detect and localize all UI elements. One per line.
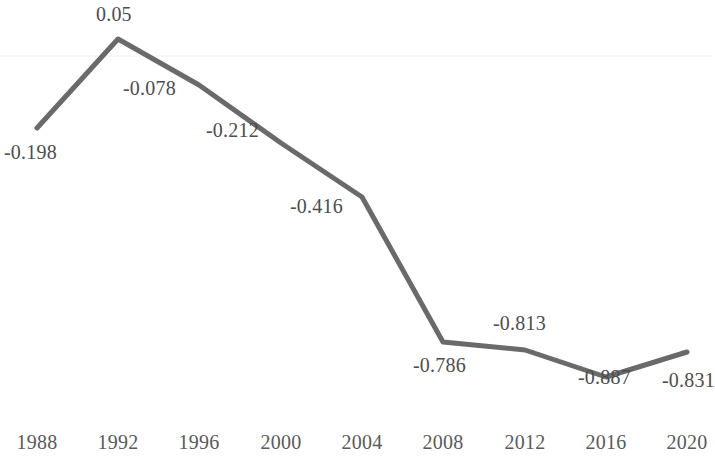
x-axis-tick-label: 2000 (261, 432, 302, 452)
x-axis-tick-label: 2012 (505, 432, 546, 452)
data-point-label: -0.078 (123, 78, 176, 98)
x-axis-tick-label: 2020 (667, 432, 708, 452)
data-point-label: -0.831 (662, 370, 715, 390)
data-point-label: -0.198 (4, 142, 57, 162)
x-axis-tick-label: 2004 (342, 432, 383, 452)
data-point-label: -0.212 (206, 120, 259, 140)
x-axis-tick-label: 2016 (586, 432, 627, 452)
data-point-label: -0.416 (290, 196, 343, 216)
x-axis-tick-label: 1992 (98, 432, 139, 452)
data-point-label: -0.813 (493, 313, 546, 333)
data-point-label: -0.887 (578, 367, 631, 387)
x-axis-tick-label: 1988 (17, 432, 58, 452)
x-axis-tick-label: 2008 (423, 432, 464, 452)
data-point-label: -0.786 (413, 355, 466, 375)
x-axis-tick-label: 1996 (179, 432, 220, 452)
data-point-label: 0.05 (96, 4, 132, 24)
